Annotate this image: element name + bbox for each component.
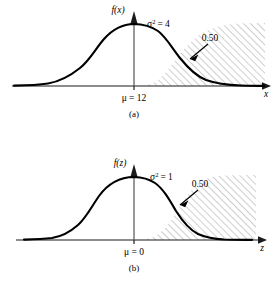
figure-svg: f(x) x σ2= 4 0.50 μ = 12 (a) [0,0,280,281]
probability-label-a: 0.50 [202,33,219,43]
mean-label-b: μ = 0 [124,247,144,257]
variance-label-a: σ2= 4 [147,18,170,30]
variance-exponent-a: 2 [152,18,155,25]
variance-value-a: = 4 [157,19,170,29]
panel-a: f(x) x σ2= 4 0.50 μ = 12 (a) [12,5,271,119]
y-axis-arrowhead-a [130,11,137,24]
panel-label-b: (b) [129,263,140,273]
y-axis-arrowhead-b [130,164,137,177]
variance-label-b: σ2= 1 [150,171,173,183]
y-axis-label-b: f(z) [114,158,127,169]
variance-value-b: = 1 [160,172,173,182]
panel-label-a: (a) [129,109,139,119]
normal-distribution-figure: f(x) x σ2= 4 0.50 μ = 12 (a) [0,0,280,281]
probability-label-b: 0.50 [192,179,209,189]
y-axis-label-a: f(x) [111,5,124,16]
x-axis-label-a: x [263,89,269,99]
mean-label-a: μ = 12 [122,93,147,103]
x-axis-label-b: z [259,243,264,253]
variance-exponent-b: 2 [155,171,158,178]
panel-b: f(z) z σ2= 1 0.50 μ = 0 (b) [16,158,267,273]
